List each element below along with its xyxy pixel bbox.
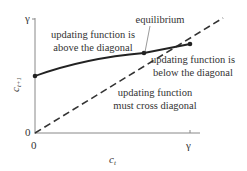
below-diagonal-label-line2: below the diagonal	[153, 67, 233, 78]
must-cross-label-line1: updating function	[118, 87, 193, 98]
above-diagonal-label-line2: above the diagonal	[53, 42, 132, 53]
curve-start-point	[33, 74, 38, 79]
updating-function-diagram: γ 0 0 γ ct ct+1 equilibrium updating fun…	[0, 0, 247, 171]
curve-end-point	[188, 42, 193, 47]
equilibrium-label: equilibrium	[136, 14, 185, 25]
equilibrium-pointer	[145, 26, 150, 52]
x-tick-label-zero: 0	[31, 139, 37, 151]
x-tick-label-gamma: γ	[185, 139, 191, 151]
x-axis-label: ct	[109, 153, 117, 167]
above-diagonal-label-line1: updating function is	[51, 29, 135, 40]
must-cross-label-line2: must cross diagonal	[113, 100, 196, 111]
equilibrium-point	[142, 51, 147, 56]
diagram-canvas: γ 0 0 γ ct ct+1 equilibrium updating fun…	[0, 0, 247, 171]
y-axis-label: ct+1	[9, 77, 23, 92]
y-tick-label-zero: 0	[25, 126, 31, 138]
y-tick-label-gamma: γ	[24, 12, 30, 24]
below-diagonal-label-line1: updating function is	[151, 54, 235, 65]
